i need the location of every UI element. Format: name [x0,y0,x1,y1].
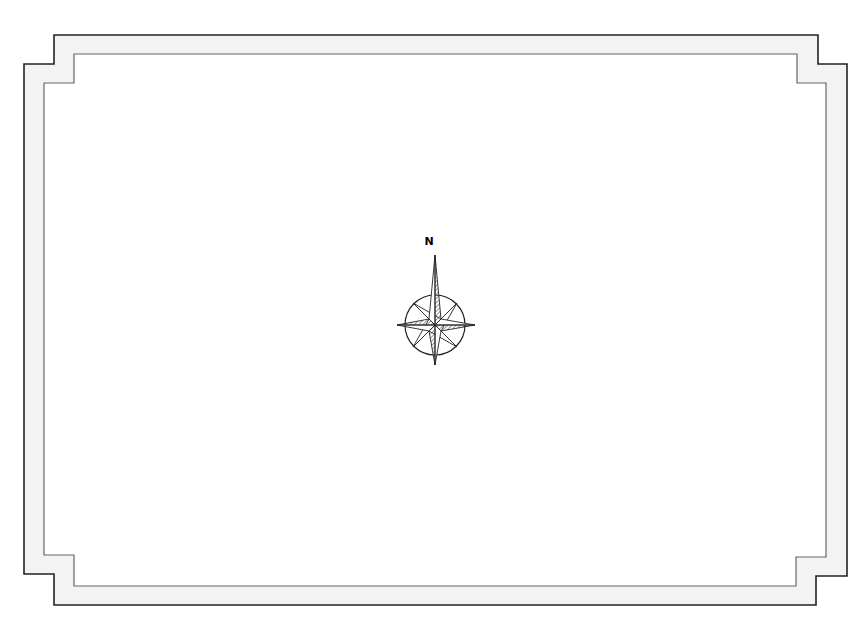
compass-icon [397,255,475,365]
north-label: N [423,235,435,248]
compass-rose [0,0,858,643]
